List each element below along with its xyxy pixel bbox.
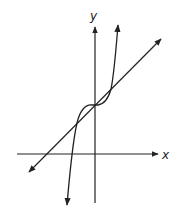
graph-diagram: y x <box>0 0 180 218</box>
x-axis-label: x <box>161 148 170 162</box>
cubic-function-curve <box>67 25 118 205</box>
y-axis-label: y <box>89 9 98 23</box>
